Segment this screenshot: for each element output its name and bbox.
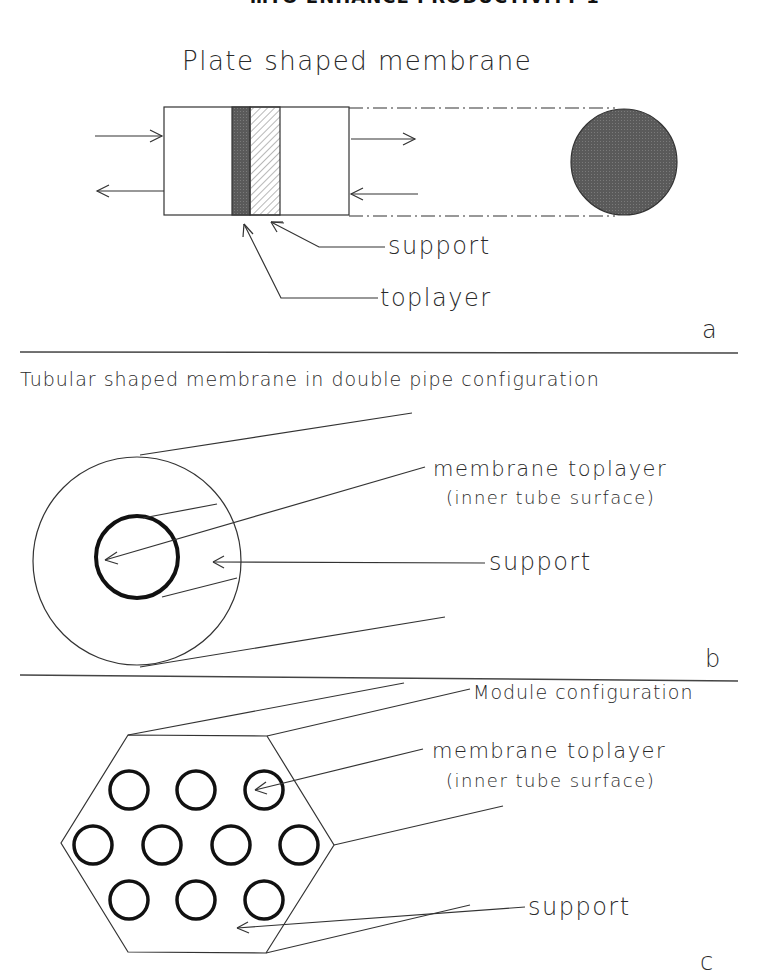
module-support-label: support xyxy=(528,895,631,919)
plate-toplayer-label: toplayer xyxy=(380,286,492,310)
plate-disc-cross-section xyxy=(571,109,677,215)
module-inner-surface-label: (inner tube surface) xyxy=(446,772,655,790)
tubular-membrane-toplayer-label: membrane toplayer xyxy=(433,459,667,480)
plate-support-label: support xyxy=(388,234,491,258)
tubular-support-label: support xyxy=(489,550,592,574)
module-membrane-toplayer-label: membrane toplayer xyxy=(432,741,666,762)
panel-letter-c: c xyxy=(700,950,715,974)
plate-membrane-figure xyxy=(95,107,677,298)
module-figure xyxy=(61,683,525,953)
membrane-diagram xyxy=(0,0,774,975)
divider-a xyxy=(20,352,738,353)
tube-bundle xyxy=(74,771,318,919)
panel-letter-a: a xyxy=(702,318,718,342)
panel-letter-b: b xyxy=(705,647,722,671)
toplayer-band xyxy=(232,107,250,215)
module-configuration-label: Module configuration xyxy=(473,683,694,702)
tubular-membrane-figure xyxy=(33,413,485,667)
tubular-inner-surface-label: (inner tube surface) xyxy=(446,489,655,507)
tubular-title: Tubular shaped membrane in double pipe c… xyxy=(20,370,600,389)
plate-title: Plate shaped membrane xyxy=(182,48,532,74)
support-band xyxy=(250,107,280,215)
outer-tube xyxy=(33,457,241,665)
inner-tube-toplayer xyxy=(96,516,178,598)
